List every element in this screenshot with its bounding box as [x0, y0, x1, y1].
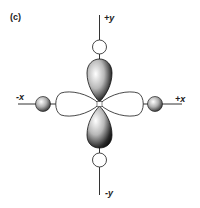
minus-y-label: -y — [105, 189, 113, 198]
left-lobe-outline — [56, 92, 100, 116]
right-lobe-outline — [100, 92, 144, 116]
orbital-diagram — [0, 0, 200, 208]
minus-y-ligand-open-circle — [93, 153, 107, 167]
bottom-lobe-shaded — [87, 106, 112, 148]
plus-y-label: +y — [104, 14, 114, 23]
center-node — [97, 102, 102, 107]
plus-x-label: +x — [175, 95, 185, 104]
plus-y-ligand-open-circle — [93, 40, 107, 54]
minus-x-label: -x — [16, 93, 24, 102]
top-lobe-shaded — [87, 59, 112, 102]
minus-x-ligand-sphere — [36, 97, 51, 112]
plus-x-ligand-sphere — [148, 97, 163, 112]
panel-label: (c) — [10, 13, 21, 22]
